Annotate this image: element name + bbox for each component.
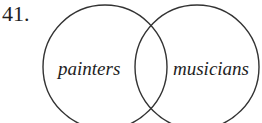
musicians-label: musicians: [173, 58, 249, 79]
venn-diagram: painters musicians: [0, 0, 262, 123]
painters-label: painters: [56, 58, 120, 79]
